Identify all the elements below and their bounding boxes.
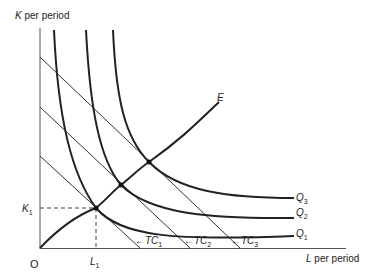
arrow-left-icon: ← (135, 235, 145, 246)
isoquant-label-q1: Q1 (296, 228, 308, 241)
production-diagram: K per period L per period O K1 L1 E Q3 Q… (0, 0, 367, 280)
isoquant-q1 (54, 30, 294, 238)
l1-label: L1 (90, 256, 100, 269)
tangency-point-1 (94, 206, 99, 211)
isoquant-q2 (86, 30, 294, 218)
isocost-label-tc1: ←TC1 (135, 235, 162, 248)
isocost-label-tc3: ←TC3 (231, 235, 258, 248)
isoquant-q3 (113, 30, 294, 198)
isoquant-label-q3: Q3 (296, 192, 308, 205)
tangency-point-2 (119, 183, 124, 188)
k1-label: K1 (22, 203, 33, 216)
expansion-path-label: E (217, 92, 224, 103)
tangency-point-3 (147, 160, 152, 165)
y-axis-label: K per period (15, 10, 69, 21)
arrow-left-icon: ← (184, 235, 194, 246)
expansion-path-e (40, 102, 219, 248)
arrow-left-icon: ← (231, 235, 241, 246)
x-axis-label: L per period (306, 253, 359, 264)
origin-label: O (30, 258, 39, 270)
isoquant-label-q2: Q2 (296, 207, 308, 220)
